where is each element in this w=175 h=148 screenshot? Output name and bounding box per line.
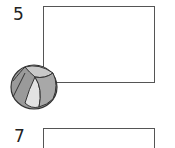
beach-ball-icon [9, 63, 59, 111]
answer-box[interactable] [43, 6, 155, 83]
question-number: 5 [13, 6, 24, 23]
answer-box[interactable] [43, 128, 155, 148]
question-number: 7 [14, 128, 25, 145]
